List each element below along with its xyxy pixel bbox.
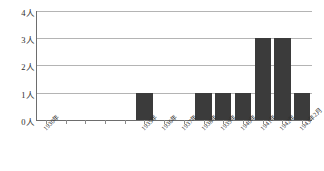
- bar-slot: [274, 11, 290, 120]
- bar: [255, 38, 271, 120]
- x-tick-mark: [85, 120, 86, 124]
- bar-slot: [176, 11, 192, 120]
- bar-slot: [235, 11, 251, 120]
- bars-layer: [36, 11, 312, 120]
- bar: [274, 38, 290, 120]
- bar-slot: [117, 11, 133, 120]
- bar-slot: [38, 11, 54, 120]
- bar-slot: [97, 11, 113, 120]
- y-tick-label-0: 0人: [21, 115, 35, 127]
- bar-slot: [156, 11, 172, 120]
- y-tick-label-1: 1人: [21, 88, 35, 100]
- x-tick-mark: [66, 120, 67, 124]
- bar-slot: [136, 11, 152, 120]
- bar-slot: [195, 11, 211, 120]
- y-tick-label-3: 3人: [21, 33, 35, 45]
- y-tick-label-2: 2人: [21, 60, 35, 72]
- x-tick-mark: [125, 120, 126, 124]
- bar-slot: [255, 11, 271, 120]
- bar-slot: [57, 11, 73, 120]
- bar-slot: [77, 11, 93, 120]
- bar-slot: [215, 11, 231, 120]
- x-tick-mark: [105, 120, 106, 124]
- y-tick-label-4: 4人: [21, 6, 35, 18]
- bar-slot: [294, 11, 310, 120]
